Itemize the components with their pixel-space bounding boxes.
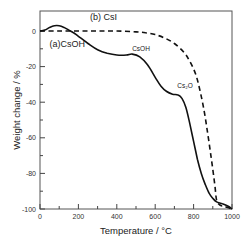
label-csi: (b) CsI bbox=[90, 12, 117, 22]
series-group bbox=[40, 25, 232, 209]
y-axis-ticks: 0-20-40-60-80-100 bbox=[22, 28, 45, 213]
x-axis-title: Temperature / °C bbox=[100, 225, 172, 236]
y-tick-label: -80 bbox=[26, 170, 36, 177]
y-tick-label: -100 bbox=[22, 206, 36, 213]
y-tick-label: -40 bbox=[26, 99, 36, 106]
x-tick-label: 400 bbox=[111, 213, 123, 220]
series-csi-line bbox=[40, 31, 232, 209]
label-cs2o-step: Cs₂O bbox=[177, 82, 193, 89]
x-tick-label: 1000 bbox=[224, 213, 240, 220]
y-tick-label: 0 bbox=[32, 28, 36, 35]
label-csoh-series: (a)CsOH bbox=[50, 39, 86, 49]
tga-chart: 0-20-40-60-80-100 02004006008001000 (b) … bbox=[0, 0, 251, 242]
x-tick-label: 800 bbox=[188, 213, 200, 220]
series-csoh-line bbox=[40, 25, 232, 209]
x-tick-label: 0 bbox=[38, 213, 42, 220]
y-axis-title: Weight change / % bbox=[11, 70, 22, 150]
y-tick-label: -20 bbox=[26, 63, 36, 70]
annotations: (b) CsI(a)CsOHCsOHCs₂O bbox=[50, 12, 193, 89]
x-tick-label: 200 bbox=[73, 213, 85, 220]
y-tick-label: -60 bbox=[26, 134, 36, 141]
x-axis-ticks: 02004006008001000 bbox=[38, 204, 240, 220]
x-tick-label: 600 bbox=[149, 213, 161, 220]
label-csoh-step: CsOH bbox=[132, 45, 150, 52]
